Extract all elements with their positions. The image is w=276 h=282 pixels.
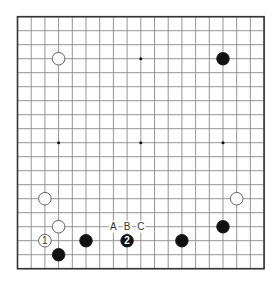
white-stone xyxy=(52,220,65,233)
point-labels: ABC xyxy=(109,221,145,233)
white-stone xyxy=(230,192,243,205)
star-point-icon xyxy=(139,141,142,144)
move-number: 1 xyxy=(42,235,48,246)
move-number: 2 xyxy=(124,235,130,246)
black-stone xyxy=(176,234,189,247)
point-label-a: A xyxy=(110,221,117,232)
go-board: ABC 12 xyxy=(0,0,276,282)
star-point-icon xyxy=(222,141,225,144)
point-label-b: B xyxy=(124,221,131,232)
point-label-c: C xyxy=(137,221,144,232)
black-stone xyxy=(52,248,65,261)
black-stone xyxy=(80,234,93,247)
black-stone-move-2: 2 xyxy=(121,234,134,247)
black-stone xyxy=(217,52,230,65)
star-point-icon xyxy=(139,57,142,60)
white-stone xyxy=(39,192,52,205)
white-stone xyxy=(52,52,65,65)
star-point-icon xyxy=(57,141,60,144)
white-stone-move-1: 1 xyxy=(39,234,52,247)
black-stone xyxy=(217,220,230,233)
